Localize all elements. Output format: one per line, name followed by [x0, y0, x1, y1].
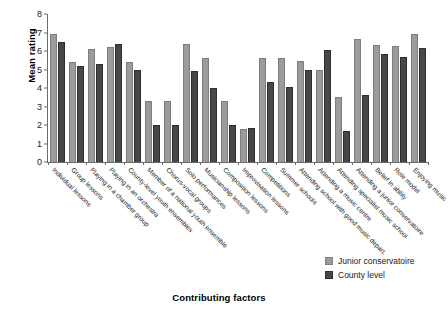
bar [115, 44, 122, 162]
bar-group [371, 14, 390, 162]
bar-groups [48, 14, 428, 162]
legend-label: Junior conservatoire [338, 255, 415, 267]
x-category-label: Enjoying music [412, 166, 448, 202]
x-tick-mark [105, 162, 106, 165]
bar-group [409, 14, 428, 162]
bar [278, 58, 285, 162]
bar [96, 64, 103, 162]
x-tick-mark [200, 162, 201, 165]
bar-group [219, 14, 238, 162]
x-tick-mark [238, 162, 239, 165]
x-tick-mark [181, 162, 182, 165]
x-tick-mark [333, 162, 334, 165]
bar [297, 61, 304, 162]
bar-group [295, 14, 314, 162]
bar-group [352, 14, 371, 162]
bar-group [124, 14, 143, 162]
bar [373, 45, 380, 162]
legend-item: Junior conservatoire [325, 255, 415, 267]
x-tick-mark [143, 162, 144, 165]
bar [58, 42, 65, 162]
bar [77, 66, 84, 162]
bar [107, 47, 114, 162]
x-tick-mark [162, 162, 163, 165]
x-tick-mark [276, 162, 277, 165]
x-tick-mark [86, 162, 87, 165]
x-tick-mark [124, 162, 125, 165]
x-category-label: Attending school with good music depart. [298, 166, 388, 256]
bar [202, 58, 209, 162]
bar [126, 62, 133, 162]
bar [145, 101, 152, 162]
x-tick-mark [428, 162, 429, 165]
bar-group [67, 14, 86, 162]
bar [411, 34, 418, 162]
bar [343, 131, 350, 162]
bar [88, 49, 95, 162]
bar [286, 87, 293, 162]
bar [229, 125, 236, 162]
x-tick-mark [409, 162, 410, 165]
legend-swatch [325, 271, 333, 279]
bar [164, 101, 171, 162]
x-axis-title: Contributing factors [0, 292, 438, 303]
x-tick-mark [371, 162, 372, 165]
bar-group [390, 14, 409, 162]
bar [305, 70, 312, 163]
bar-group [105, 14, 124, 162]
bar-group [181, 14, 200, 162]
x-tick-mark [314, 162, 315, 165]
bar [183, 44, 190, 162]
bar [134, 70, 141, 163]
bar [153, 125, 160, 162]
bar [240, 129, 247, 162]
bar [221, 101, 228, 162]
bar-group [276, 14, 295, 162]
x-tick-mark [48, 162, 49, 165]
bar-group [238, 14, 257, 162]
x-tick-mark [352, 162, 353, 165]
y-axis-title: Mean rating [26, 28, 37, 82]
legend-label: County level [338, 269, 385, 281]
bar-group [86, 14, 105, 162]
bar [392, 46, 399, 162]
x-tick-mark [295, 162, 296, 165]
x-tick-mark [390, 162, 391, 165]
bar [191, 71, 198, 162]
bar [259, 58, 266, 162]
bar [316, 70, 323, 163]
bar [354, 39, 361, 162]
bar [267, 82, 274, 162]
bar-group [143, 14, 162, 162]
bar [362, 95, 369, 162]
bar [69, 62, 76, 162]
bar [324, 50, 331, 162]
bar [248, 128, 255, 162]
bar-group [333, 14, 352, 162]
x-tick-mark [257, 162, 258, 165]
bar [335, 97, 342, 162]
x-tick-mark [67, 162, 68, 165]
bar [50, 34, 57, 162]
bar [172, 125, 179, 162]
bar-group [48, 14, 67, 162]
bar-group [257, 14, 276, 162]
bar-group [314, 14, 333, 162]
bar-group [200, 14, 219, 162]
bar [419, 48, 426, 162]
bar [210, 88, 217, 162]
x-tick-mark [219, 162, 220, 165]
legend-item: County level [325, 269, 415, 281]
chart-legend: Junior conservatoireCounty level [325, 255, 415, 283]
bar [381, 54, 388, 162]
legend-swatch [325, 257, 333, 265]
bar [400, 57, 407, 162]
bar-group [162, 14, 181, 162]
